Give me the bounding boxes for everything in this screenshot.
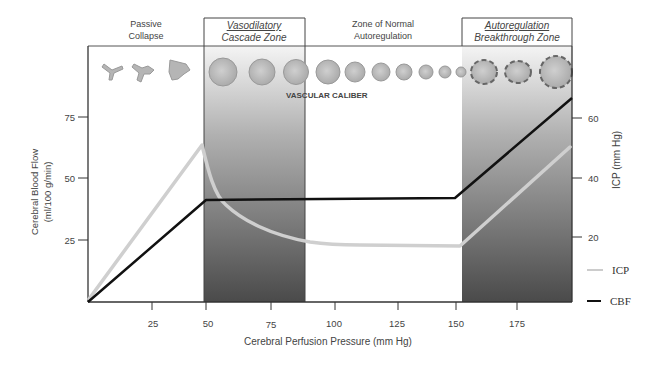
vessel-circle [249, 59, 275, 85]
svg-text:20: 20 [588, 232, 599, 243]
y-right-tick-labels: 60 40 20 [588, 113, 599, 243]
legend-cbf-label: CBF [610, 295, 631, 307]
svg-text:50: 50 [64, 173, 75, 184]
svg-text:125: 125 [389, 318, 405, 329]
y-right-axis-label: ICP (mm Hg) [611, 131, 622, 189]
svg-text:150: 150 [448, 318, 464, 329]
collapsed-vessel-icon [102, 64, 123, 80]
svg-text:175: 175 [509, 318, 525, 329]
vessel-circle [316, 60, 340, 84]
vessel-circle [419, 65, 433, 79]
svg-text:75: 75 [64, 112, 75, 123]
zone-label-vasodilatory-line2: Cascade Zone [221, 32, 286, 43]
svg-text:50: 50 [203, 318, 214, 329]
y-left-axis-label-line1: Cerebral Blood Flow [29, 149, 40, 235]
dilated-vessel-circle [540, 56, 572, 88]
collapsed-vessel-icons [102, 60, 190, 82]
vessel-circle [396, 64, 412, 80]
x-axis-label: Cerebral Perfusion Pressure (mm Hg) [244, 336, 412, 347]
vascular-caliber-label: VASCULAR CALIBER [286, 91, 368, 100]
vessel-circle [372, 63, 390, 81]
vessel-circle [209, 58, 237, 86]
vessel-circle [456, 67, 466, 77]
y-left-tick-labels: 75 50 25 [64, 112, 75, 246]
svg-text:60: 60 [588, 113, 599, 124]
vessel-circle [439, 66, 451, 78]
collapsed-vessel-icon [169, 60, 190, 80]
zone-label-breakthrough-line1: Autoregulation [484, 20, 550, 31]
svg-text:25: 25 [148, 318, 159, 329]
y-right-ticks [572, 118, 582, 237]
zone-label-vasodilatory-line1: Vasodilatory [227, 20, 283, 31]
legend-icp-label: ICP [612, 264, 629, 276]
dilated-vessel-circle [505, 61, 531, 83]
zone-label-passive-line1: Passive [130, 19, 162, 29]
cerebral-autoregulation-chart: Passive Collapse Vasodilatory Cascade Zo… [0, 0, 660, 369]
vessel-circle [284, 60, 309, 85]
zone-label-breakthrough-line2: Breakthrough Zone [474, 32, 560, 43]
y-left-axis-label-line2: (ml/100 g/min) [42, 162, 53, 223]
vessel-circle [345, 62, 365, 82]
dilated-vessel-circle [471, 60, 497, 84]
collapsed-vessel-icon [132, 64, 154, 82]
y-left-ticks [78, 117, 88, 240]
x-axis-ticks [152, 302, 517, 310]
zone-label-normal-line1: Zone of Normal [352, 19, 414, 29]
x-axis-tick-labels: 25 50 75 100 125 150 175 [148, 318, 525, 330]
legend: ICP CBF [587, 264, 631, 307]
svg-text:100: 100 [326, 318, 342, 329]
svg-text:40: 40 [588, 173, 599, 184]
svg-text:75: 75 [266, 319, 277, 330]
zone-label-passive-line2: Collapse [128, 31, 163, 41]
zone-label-normal-line2: Autoregulation [354, 31, 412, 41]
svg-text:25: 25 [64, 235, 75, 246]
